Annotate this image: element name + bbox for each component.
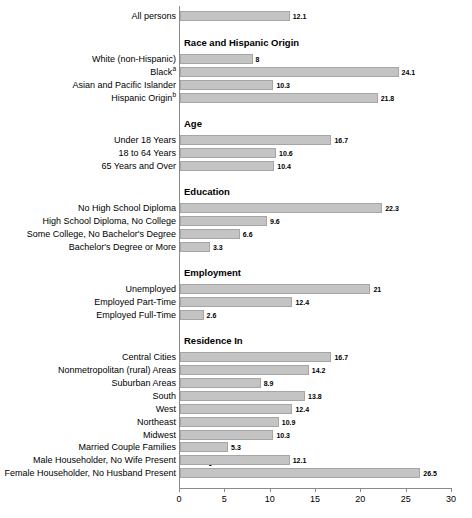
chart-row: Employed Full-Time2.6 [0,310,472,321]
bar [180,216,267,226]
category-label: West [156,404,176,415]
bar [180,93,378,103]
chart-row: Under 18 Years16.7 [0,135,472,146]
bar-value-label: 14.2 [312,366,326,375]
bar-value-label: 9.6 [270,217,280,226]
chart-row: Bachelor's Degree or More3.3 [0,242,472,253]
section-heading: Age [184,118,202,130]
chart-row: Male Householder, No Wife Present12.1 [0,455,472,466]
x-axis-tick-label: 10 [258,494,282,505]
category-label: High School Diploma, No College [42,216,176,227]
category-label: Central Cities [122,352,176,363]
chart-row: Employed Part-Time12.4 [0,297,472,308]
bar [180,135,331,145]
chart-row: West12.4 [0,404,472,415]
chart-row: Married Couple Families5.3 [0,442,472,453]
plot-area: 051015202530 All persons12.1Race and His… [0,0,472,518]
chart-row: Blacka24.1 [0,67,472,78]
bar-value-label: 8.9 [264,379,274,388]
bar [180,67,399,77]
category-label: Nonmetropolitan (rural) Areas [58,365,176,376]
x-axis-tick-mark [224,488,225,492]
bar-value-label: 26.5 [423,469,437,478]
bar-chart: 051015202530 All persons12.1Race and His… [0,0,472,518]
chart-row: Nonmetropolitan (rural) Areas14.2 [0,365,472,376]
bar [180,11,290,21]
x-axis-tick-label: 0 [167,494,191,505]
chart-row: No High School Diploma22.3 [0,203,472,214]
category-label: Asian and Pacific Islander [72,80,176,91]
bar-value-label: 13.8 [308,392,322,401]
bar-value-label: 21.8 [381,94,395,103]
bar-value-label: 6.6 [243,230,253,239]
bar [180,148,276,158]
bar [180,229,240,239]
bar-value-label: 12.1 [293,12,307,21]
bar-value-label: 12.1 [293,456,307,465]
category-label: White (non-Hispanic) [92,54,176,65]
bar [180,297,292,307]
chart-row: Hispanic Originb21.8 [0,93,472,104]
bar-value-label: 24.1 [402,68,416,77]
bar [180,468,420,478]
bar-value-label: 12.4 [295,298,309,307]
bar-value-label: 2.6 [207,311,217,320]
bar [180,80,273,90]
chart-row: 18 to 64 Years10.6 [0,148,472,159]
chart-row: Central Cities16.7 [0,352,472,363]
x-axis-tick-label: 5 [212,494,236,505]
category-label: South [152,391,176,402]
bar [180,284,370,294]
x-axis-tick-mark [179,488,180,492]
category-label: 18 to 64 Years [118,148,176,159]
bar [180,310,204,320]
bar-value-label: 10.3 [276,431,290,440]
chart-row: Female Householder, No Husband Present26… [0,468,472,479]
bar-value-label: 16.7 [334,136,348,145]
chart-row: 65 Years and Over10.4 [0,161,472,172]
x-axis-tick-label: 20 [348,494,372,505]
x-axis-tick-label: 15 [303,494,327,505]
category-label: Bachelor's Degree or More [69,242,176,253]
bar-value-label: 16.7 [334,353,348,362]
x-axis-tick-label: 30 [439,494,463,505]
category-label: 65 Years and Over [101,161,176,172]
chart-row: High School Diploma, No College9.6 [0,216,472,227]
bar-value-label: 8 [256,55,260,64]
section-heading: Employment [184,267,241,279]
bar-value-label: 3.3 [213,243,223,252]
bar [180,365,309,375]
x-axis-tick-mark [360,488,361,492]
category-label: Male Householder, No Wife Present [33,455,176,466]
bar [180,242,210,252]
category-label: Midwest [143,430,176,441]
category-label: Female Householder, No Husband Present [4,468,176,479]
bar [180,161,274,171]
bar [180,378,261,388]
bar-value-label: 10.4 [277,162,291,171]
bar [180,417,279,427]
bar [180,54,253,64]
category-label: Employed Part-Time [94,297,176,308]
x-axis-tick-mark [315,488,316,492]
chart-row: White (non-Hispanic)8 [0,54,472,65]
bar-value-label: 22.3 [385,204,399,213]
x-axis-tick-mark [451,488,452,492]
x-axis-tick-mark [270,488,271,492]
category-label: Some College, No Bachelor's Degree [27,229,176,240]
bar-value-label: 10.3 [276,81,290,90]
chart-row: South13.8 [0,391,472,402]
chart-row: Northeast10.9 [0,417,472,428]
x-axis-tick-label: 25 [394,494,418,505]
bar [180,455,290,465]
bar [180,404,292,414]
category-label: Blacka [150,67,176,78]
bar [180,203,382,213]
section-heading: Residence In [184,335,243,347]
chart-row: All persons12.1 [0,11,472,22]
category-label: Unemployed [125,284,176,295]
bar [180,352,331,362]
chart-row: Suburban Areas8.9 [0,378,472,389]
bar [180,442,228,452]
bar-value-label: 10.9 [282,418,296,427]
